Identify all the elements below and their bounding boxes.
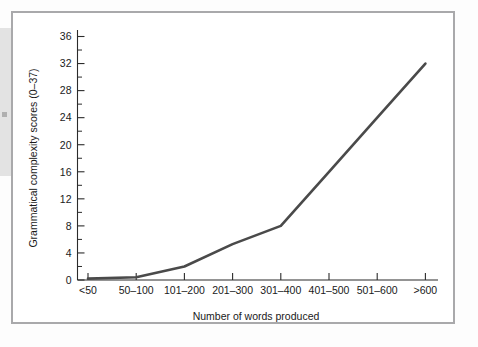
y-tick-label: 12 [60, 193, 72, 205]
y-tick-label: 36 [60, 30, 72, 42]
y-tick-label: 0 [66, 274, 72, 286]
y-tick-label: 28 [60, 84, 72, 96]
x-tick-label: >600 [414, 284, 438, 296]
x-tick-label: 501–600 [357, 284, 398, 296]
line-chart: 04812162024283236 <5050–100101–200201–30… [0, 0, 478, 347]
x-tick-label: 401–500 [309, 284, 350, 296]
y-tick-label: 24 [60, 111, 72, 123]
x-axis-title: Number of words produced [193, 310, 320, 322]
x-tick-label: 50–100 [119, 284, 154, 296]
y-tick-label: 4 [66, 247, 72, 259]
y-tick-label: 32 [60, 57, 72, 69]
y-tick-label: 8 [66, 220, 72, 232]
y-axis-ticks: 04812162024283236 [60, 30, 85, 285]
x-tick-label: 101–200 [164, 284, 205, 296]
y-tick-label: 16 [60, 166, 72, 178]
x-tick-label: 301–400 [260, 284, 301, 296]
x-tick-label: 201–300 [212, 284, 253, 296]
chart-plot-area: 04812162024283236 <5050–100101–200201–30… [0, 0, 478, 347]
y-axis-title: Grammatical complexity scores (0–37) [27, 68, 39, 247]
data-series-line [88, 64, 425, 279]
y-tick-label: 20 [60, 139, 72, 151]
scanned-page: 04812162024283236 <5050–100101–200201–30… [0, 0, 478, 347]
x-tick-label: <50 [79, 284, 97, 296]
chart-axes [78, 30, 439, 280]
